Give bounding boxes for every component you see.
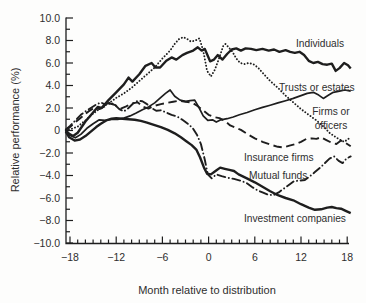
series-label-investment-companies: Investment companies <box>244 213 346 224</box>
y-tick-label: −6.0 <box>39 192 60 204</box>
y-tick-label: 6.0 <box>45 57 60 69</box>
series-line-investment-companies <box>66 118 351 213</box>
figure-secondary-distribution-performance: 10.08.06.04.02.00−2.0−4.0−6.0−8.0−10.0−1… <box>0 0 366 303</box>
x-tick-label: 12 <box>295 251 307 263</box>
series-labels: IndividualsTrusts or estatesFirms oroffi… <box>244 38 355 224</box>
x-tick-label: −6 <box>156 251 168 263</box>
y-tick-label: 4.0 <box>45 79 60 91</box>
y-tick-label: 10.0 <box>40 12 61 24</box>
x-tick-label: 0 <box>206 251 212 263</box>
series-label-mutual-funds: Mutual funds <box>249 170 307 181</box>
series-label-firms-or-officers: officers <box>315 120 348 131</box>
y-axis-title: Relative performance (%) <box>9 68 21 193</box>
axis-lines <box>66 18 349 244</box>
y-tick-label: −4.0 <box>39 169 60 181</box>
axes <box>66 18 349 244</box>
y-tick-label: −2.0 <box>39 147 60 159</box>
y-tick-label: 8.0 <box>45 34 60 46</box>
x-tick-label: −18 <box>61 251 79 263</box>
x-tick-label: −12 <box>107 251 125 263</box>
performance-chart: 10.08.06.04.02.00−2.0−4.0−6.0−8.0−10.0−1… <box>0 0 366 303</box>
y-tick-labels: 10.08.06.04.02.00−2.0−4.0−6.0−8.0−10.0 <box>33 12 60 249</box>
y-tick-label: 2.0 <box>45 102 60 114</box>
x-tick-label: 18 <box>341 251 353 263</box>
y-tick-label: −10.0 <box>33 237 60 249</box>
series-label-firms-or-officers: Firms or <box>312 106 350 117</box>
series-label-individuals: Individuals <box>296 38 344 49</box>
y-tick-label: 0 <box>54 124 60 136</box>
y-tick-label: −8.0 <box>39 214 60 226</box>
x-axis-title: Month relative to distribution <box>138 284 276 296</box>
x-axis-ticks <box>70 237 347 244</box>
x-tick-labels: −18−12−6061218 <box>61 251 353 263</box>
series-line-insurance-firms <box>66 101 351 148</box>
series-label-trusts-or-estates: Trusts or estates <box>279 82 355 93</box>
x-tick-label: 6 <box>252 251 258 263</box>
series-label-insurance-firms: Insurance firms <box>244 152 314 163</box>
